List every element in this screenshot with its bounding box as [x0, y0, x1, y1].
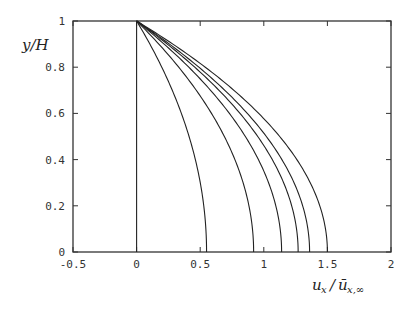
svg-text:x: x — [321, 284, 327, 295]
x-tick-label: 1 — [260, 258, 267, 271]
velocity-profile-curve — [137, 21, 310, 252]
x-axis-title: u x / ū x,∞ — [312, 276, 364, 295]
y-tick-label: 0.8 — [45, 61, 65, 74]
y-tick-label: 1 — [58, 15, 65, 28]
x-tick-label: 0 — [133, 258, 140, 271]
y-tick-label: 0 — [58, 246, 65, 259]
velocity-profile-curve — [137, 21, 254, 252]
svg-text:/: / — [328, 276, 337, 294]
chart: -0.500.511.52 00.20.40.60.81 y/H u x / ū… — [0, 0, 410, 310]
x-axis-ticks: -0.500.511.52 — [60, 21, 395, 271]
svg-text:x,∞: x,∞ — [347, 284, 364, 295]
velocity-profile-curve — [137, 21, 207, 252]
y-axis-title: y/H — [21, 36, 50, 54]
velocity-profiles — [137, 21, 328, 252]
x-tick-label: 2 — [388, 258, 395, 271]
y-axis-ticks: 00.20.40.60.81 — [45, 15, 391, 259]
y-tick-label: 0.2 — [45, 200, 65, 213]
x-tick-label: -0.5 — [60, 258, 87, 271]
velocity-profile-curve — [137, 21, 299, 252]
x-tick-label: 0.5 — [190, 258, 210, 271]
y-tick-label: 0.6 — [45, 107, 65, 120]
velocity-profile-curve — [137, 21, 282, 252]
velocity-profile-curve — [137, 21, 328, 252]
x-tick-label: 1.5 — [317, 258, 337, 271]
plot-area — [73, 21, 391, 252]
y-tick-label: 0.4 — [45, 154, 65, 167]
plot-frame — [73, 21, 391, 252]
